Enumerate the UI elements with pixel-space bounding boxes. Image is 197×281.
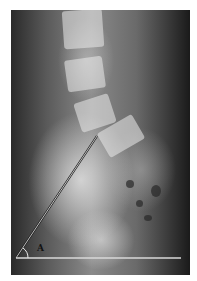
angle-arc (23, 248, 28, 258)
oblique-line-highlight (16, 136, 97, 258)
angle-label: A (37, 243, 44, 253)
angle-overlay (0, 0, 197, 281)
